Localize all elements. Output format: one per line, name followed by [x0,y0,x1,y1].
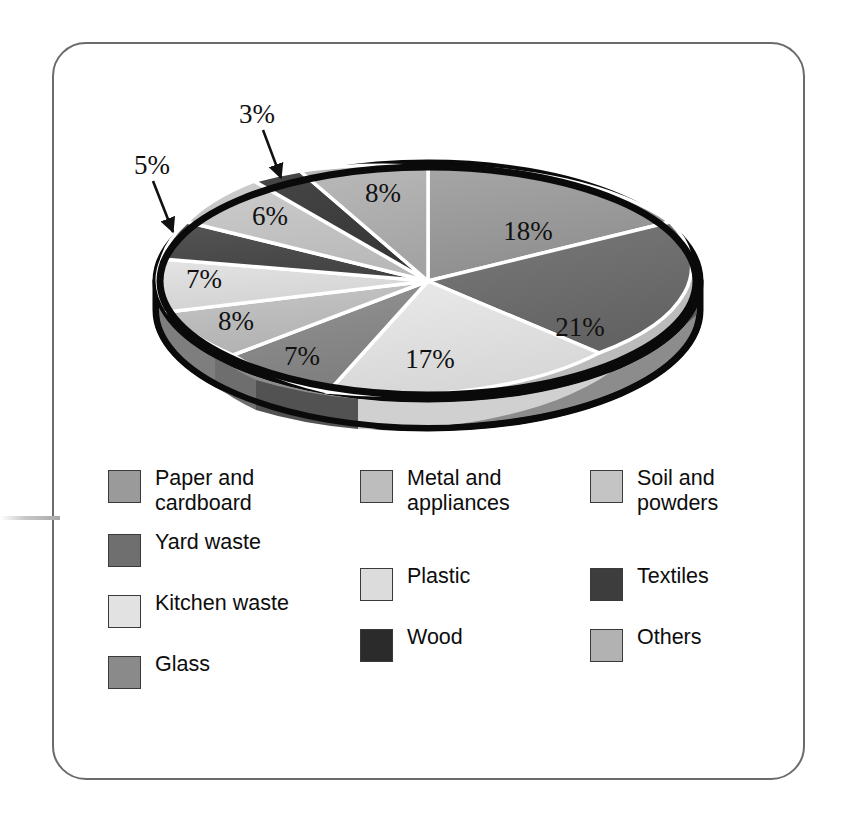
legend-label-paper-and-cardboard: Paper and cardboard [155,466,254,516]
legend-swatch-others [590,629,623,662]
legend-item-wood[interactable]: Wood [360,625,580,662]
pie-label-paper: 18% [503,216,553,246]
legend-label-others: Others [637,625,702,650]
legend-spacer [590,603,790,625]
pie-label-glass: 7% [284,341,320,371]
legend-swatch-paper-and-cardboard [108,470,141,503]
pie-label-yard: 21% [555,312,605,342]
legend-spacer [360,603,580,625]
legend-spacer [108,518,348,530]
legend-column-3: Soil and powders Textiles Others [590,466,790,664]
figure-container: 18% 21% 17% 7% 8% 7% 6% 8% 3% 5% Paper a… [0,0,845,832]
legend-label-kitchen-waste: Kitchen waste [155,591,289,616]
legend-swatch-glass [108,656,141,689]
legend-spacer [590,518,790,564]
legend-item-textiles[interactable]: Textiles [590,564,790,601]
legend-spacer [360,518,580,564]
legend-item-soil-and-powders[interactable]: Soil and powders [590,466,790,516]
legend-swatch-yard-waste [108,534,141,567]
legend-item-others[interactable]: Others [590,625,790,662]
pie-label-soil: 6% [252,201,288,231]
legend-swatch-textiles [590,568,623,601]
legend-swatch-metal-and-appliances [360,470,393,503]
legend-label-metal-and-appliances: Metal and appliances [407,466,510,516]
legend-label-yard-waste: Yard waste [155,530,261,555]
legend-swatch-plastic [360,568,393,601]
legend-label-soil-and-powders: Soil and powders [637,466,718,516]
legend-spacer [108,569,348,591]
legend-column-1: Paper and cardboard Yard waste Kitchen w… [108,466,348,691]
callout-label-5-percent: 5% [134,150,170,181]
pie-label-kitchen: 17% [405,344,455,374]
legend-item-plastic[interactable]: Plastic [360,564,580,601]
legend-spacer [108,630,348,652]
legend: Paper and cardboard Yard waste Kitchen w… [108,466,778,686]
pie-label-plastic: 7% [186,264,222,294]
legend-label-wood: Wood [407,625,463,650]
pie-chart: 18% 21% 17% 7% 8% 7% 6% 8% [130,140,730,470]
legend-swatch-wood [360,629,393,662]
legend-label-textiles: Textiles [637,564,709,589]
legend-item-yard-waste[interactable]: Yard waste [108,530,348,567]
legend-swatch-soil-and-powders [590,470,623,503]
legend-item-metal-and-appliances[interactable]: Metal and appliances [360,466,580,516]
pie-label-others: 8% [365,178,401,208]
legend-label-glass: Glass [155,652,210,677]
callout-label-3-percent: 3% [239,99,275,130]
legend-item-paper-and-cardboard[interactable]: Paper and cardboard [108,466,348,516]
legend-label-plastic: Plastic [407,564,470,589]
pie-label-metal: 8% [218,306,254,336]
left-edge-tick [0,516,60,520]
legend-item-glass[interactable]: Glass [108,652,348,689]
legend-column-2: Metal and appliances Plastic Wood [360,466,580,664]
legend-swatch-kitchen-waste [108,595,141,628]
legend-item-kitchen-waste[interactable]: Kitchen waste [108,591,348,628]
